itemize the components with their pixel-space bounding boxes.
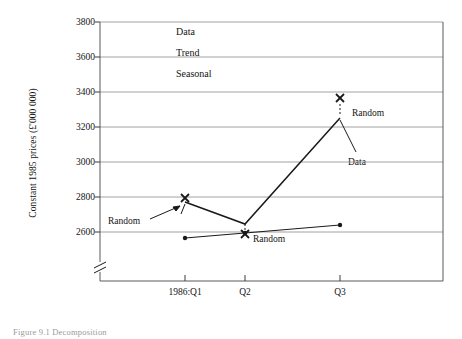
y-tick-marks (95, 22, 100, 232)
axis-break-icon (94, 262, 106, 273)
trend-point-q3 (338, 223, 342, 227)
trend-point-q1 (183, 236, 187, 240)
axis-frame (100, 22, 443, 281)
axis-break-slash-upper (94, 262, 106, 268)
figure-container: Constant 1985 prices (£'000 000) 3800 36… (0, 0, 462, 339)
chart-canvas (0, 0, 462, 339)
gridlines (100, 22, 443, 232)
leader-data-q3 (340, 120, 356, 152)
series-markers-seasonal (181, 94, 344, 238)
series-line-data (185, 118, 340, 224)
x-tick-marks (185, 275, 340, 281)
leader-arrow-random-q1 (173, 206, 180, 211)
random-gap-indicators (181, 104, 340, 232)
random-tick-q1 (181, 204, 185, 214)
series-line-trend (185, 225, 340, 238)
